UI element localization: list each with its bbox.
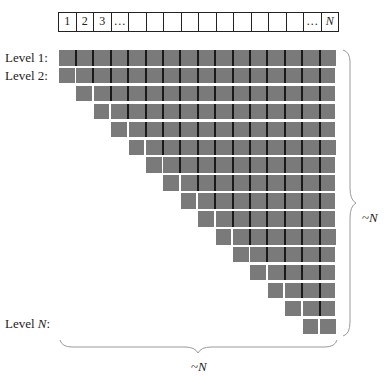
triangular-levels-diagram: 123……N Level 1:Level 2:Level N: ~N ~N [0,0,392,376]
bottom-brace-icon [60,340,337,353]
braces [0,0,392,376]
right-brace-icon [343,50,356,336]
right-brace-label: ~N [362,211,378,225]
right-brace-text: ~N [362,210,378,225]
bottom-brace-text: ~N [191,359,207,374]
bottom-brace-label: ~N [191,360,207,374]
